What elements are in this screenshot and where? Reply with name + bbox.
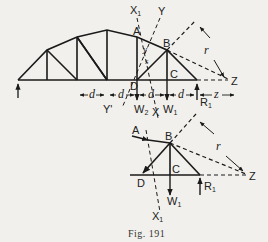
label-D: D: [130, 80, 138, 92]
figure-191: X1 Y A B C D Z r y s Y' X W2 W1 R1 d d d…: [0, 0, 268, 242]
lower-label-C: C: [172, 163, 180, 175]
label-y: y: [142, 44, 147, 54]
label-s: s: [145, 56, 149, 66]
lower-label-B: B: [165, 130, 172, 142]
lower-top-extension: [170, 143, 246, 174]
label-Y-prime: Y': [103, 103, 112, 115]
figure-caption: Fig. 191: [128, 228, 165, 239]
label-X: X: [152, 106, 160, 118]
label-A: A: [133, 25, 141, 37]
lower-label-Z: Z: [249, 170, 256, 182]
dim-d-4: d: [178, 87, 185, 101]
dim-d-3: d: [148, 87, 155, 101]
lower-label-r: r: [216, 139, 221, 153]
dim-d-1: d: [89, 87, 96, 101]
lower-r-arrow-lower: [226, 156, 243, 171]
diagonal-extension: [167, 20, 196, 50]
diagonal-1: [47, 50, 77, 80]
dim-z: z: [213, 87, 219, 101]
lower-diagonal-BD: [143, 143, 170, 173]
lower-section-line: [146, 130, 160, 212]
lower-label-X1: X1: [152, 210, 163, 223]
r-arrow-upper: [200, 27, 210, 38]
lower-free-body: [130, 143, 200, 175]
dim-d-2: d: [118, 87, 125, 101]
label-W1: W1: [163, 103, 177, 116]
upper-truss-diag-right: [107, 30, 137, 80]
label-Y: Y: [158, 5, 166, 17]
lower-label-R1: R1: [204, 180, 216, 193]
diagonal-DB: [137, 50, 167, 80]
lower-label-D: D: [137, 177, 145, 189]
label-C: C: [170, 68, 178, 80]
label-R1: R1: [200, 96, 212, 109]
force-A-arrow: [132, 136, 148, 140]
label-B: B: [163, 37, 170, 49]
lower-r-arrow-upper: [200, 122, 214, 134]
label-X1: X1: [130, 4, 141, 17]
lower-label-W1: W1: [167, 195, 181, 208]
lower-diagonal-extension: [170, 114, 196, 143]
label-r: r: [204, 43, 209, 57]
label-W2: W2: [134, 103, 148, 116]
label-Z: Z: [231, 75, 238, 87]
lower-label-A: A: [132, 124, 140, 136]
